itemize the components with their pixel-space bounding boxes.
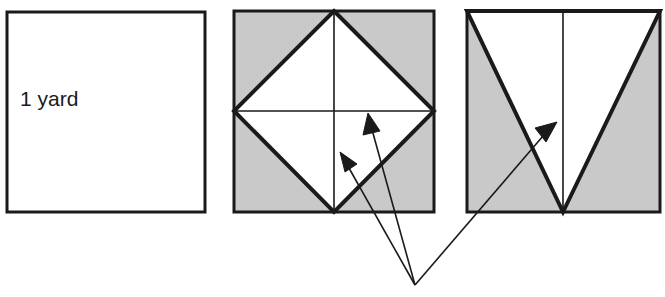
inverted-triangle-panel [467, 11, 660, 212]
unit-square-outline [7, 12, 205, 212]
inscribed-diamond-panel [234, 11, 434, 212]
unit-square-label: 1 yard [20, 87, 78, 110]
geometry-figure: 1 yard [0, 0, 665, 297]
unit-square-panel: 1 yard [7, 12, 205, 212]
